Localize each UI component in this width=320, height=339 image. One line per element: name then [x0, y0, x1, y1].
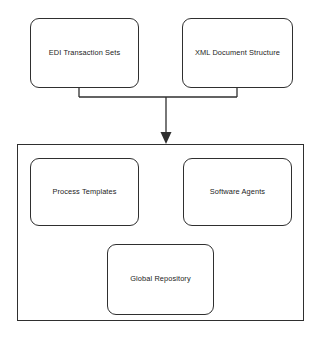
node-process-templates[interactable]: Process Templates: [30, 158, 139, 226]
node-global-repository[interactable]: Global Repository: [107, 244, 214, 315]
node-label: XML Document Structure: [195, 49, 280, 58]
node-label: Software Agents: [210, 188, 265, 197]
node-software-agents[interactable]: Software Agents: [183, 158, 292, 226]
arrowhead-icon: [161, 132, 172, 144]
diagram-canvas: EDI Transaction Sets XML Document Struct…: [0, 0, 320, 339]
node-label: EDI Transaction Sets: [49, 49, 120, 58]
node-label: Process Templates: [53, 188, 117, 197]
node-xml-document-structure[interactable]: XML Document Structure: [182, 18, 293, 88]
node-edi-transaction-sets[interactable]: EDI Transaction Sets: [30, 18, 139, 88]
node-label: Global Repository: [130, 275, 190, 284]
